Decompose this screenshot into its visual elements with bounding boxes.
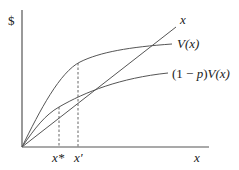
line-x-label: x xyxy=(179,12,186,27)
curve-pv-prefix: (1 − xyxy=(172,66,197,81)
y-axis-label: $ xyxy=(8,13,15,28)
curve-pv-v: V(x) xyxy=(208,66,230,81)
x-axis-label: x xyxy=(193,150,200,165)
diagram-canvas: $ x x V(x) (1 − p)V(x) x* x′ xyxy=(0,0,239,170)
curve-one-minus-p-v-label: (1 − p)V(x) xyxy=(172,66,230,81)
x-star-label: x* xyxy=(51,150,65,165)
curve-v xyxy=(22,44,172,147)
curve-v-label: V(x) xyxy=(177,36,199,51)
curve-one-minus-p-v xyxy=(22,73,168,147)
line-x xyxy=(22,27,176,147)
x-prime-label: x′ xyxy=(73,150,83,165)
